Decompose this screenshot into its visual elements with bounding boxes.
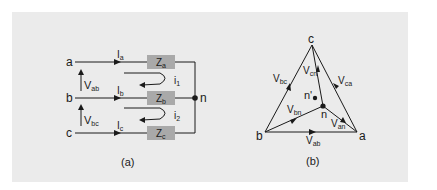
point-n-prime-label: n' (304, 89, 312, 101)
phasor-diagram: c b a n n' Vbc Vca Vab Vcn Vbn Van (b) (256, 32, 366, 167)
loop-current-1-label: i1 (174, 75, 180, 87)
voltage-bc-label: Vbc (84, 114, 99, 127)
phasor-vbn-label: Vbn (287, 104, 302, 116)
phasor-vca-label: Vca (338, 75, 352, 87)
phasor-vab-label: Vab (306, 135, 321, 147)
phasor-vcn-label: Vcn (303, 65, 317, 77)
current-c-label: Ic (117, 120, 124, 132)
circuit-diagram: a b c n Ia Ib Ic Vab Vbc i1 i2 Za Zb Zc … (66, 49, 207, 168)
current-b-label: Ib (117, 85, 124, 97)
node-n-label: n (200, 91, 207, 105)
node-c-label: c (66, 126, 72, 140)
voltage-ab-label: Vab (84, 79, 99, 92)
node-n-dot (192, 95, 198, 101)
node-a-label: a (66, 55, 73, 69)
current-a-label: Ia (117, 49, 124, 61)
loop-current-2-label: i2 (174, 110, 180, 122)
vertex-c-label: c (308, 32, 314, 46)
point-n-prime-dot (313, 96, 317, 100)
caption-b: (b) (306, 155, 319, 167)
vertex-a-label: a (359, 129, 366, 143)
caption-a: (a) (121, 156, 134, 168)
phasor-vbc-label: Vbc (273, 73, 288, 85)
vertex-b-label: b (256, 129, 263, 143)
diagram-canvas: a b c n Ia Ib Ic Vab Vbc i1 i2 Za Zb Zc … (0, 0, 437, 190)
node-b-label: b (66, 91, 73, 105)
point-n-label: n (321, 108, 327, 120)
